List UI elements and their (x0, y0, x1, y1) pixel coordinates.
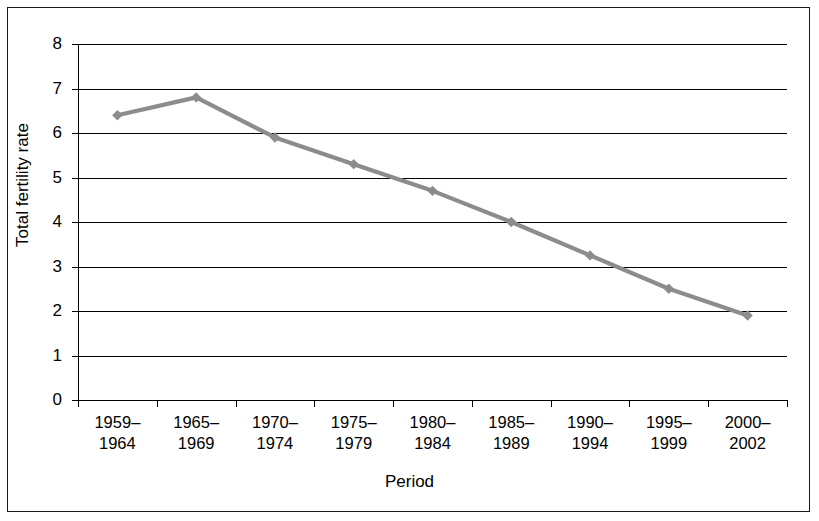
data-series-svg: 1959– 1964: 6.41965– 1969: 6.81970– 1974… (0, 0, 819, 521)
chart-figure: Total fertility rate 012345678 1959–1964… (0, 0, 819, 521)
data-point-marker: 1959– 1964: 6.4 (112, 110, 122, 120)
data-point-marker: 1975– 1979: 5.3 (349, 159, 359, 169)
x-axis-title: Period (0, 472, 819, 492)
series-line (117, 97, 747, 315)
data-point-marker: 2000– 2002: 1.9 (742, 310, 752, 320)
